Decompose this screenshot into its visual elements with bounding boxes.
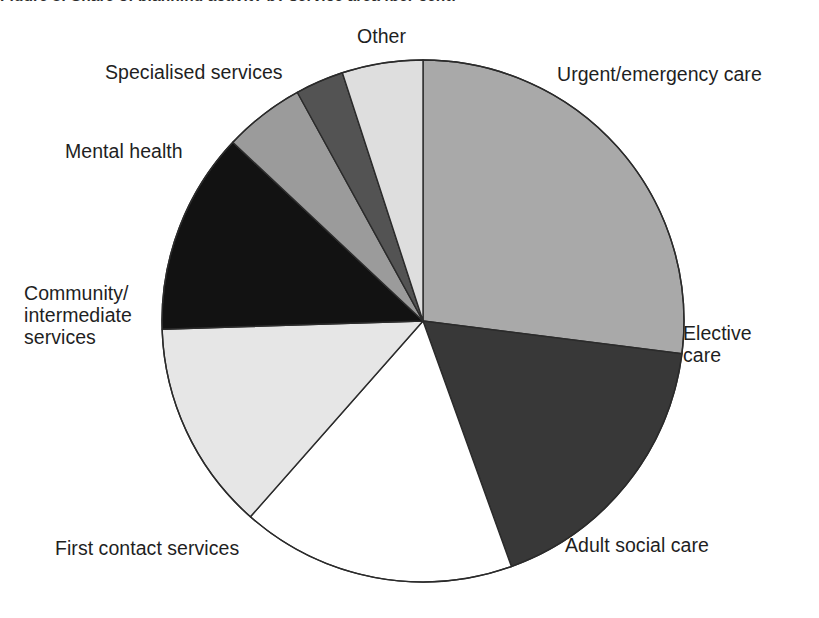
pie-label-urgent-emergency-care: Urgent/emergency care [557, 64, 762, 86]
pie-label-adult-social-care: Adult social care [565, 535, 709, 557]
pie-slice-group [162, 60, 684, 582]
pie-slice [423, 60, 684, 354]
pie-label-specialised-services: Specialised services [105, 62, 283, 84]
pie-label-elective-care: Elective care [683, 323, 752, 367]
pie-label-community-intermediate-services: Community/ intermediate services [24, 283, 132, 348]
pie-label-mental-health: Mental health [65, 141, 183, 163]
pie-label-first-contact-services: First contact services [55, 538, 239, 560]
pie-label-other: Other [357, 26, 406, 48]
pie-chart-figure: Figure 3: Share of planning activity by … [0, 0, 819, 618]
